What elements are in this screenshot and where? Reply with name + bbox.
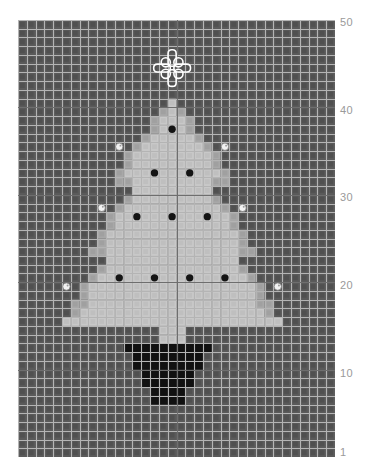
row-label-20: 20 xyxy=(340,280,353,291)
pattern-chart-page: 50 40 30 20 10 1 xyxy=(0,0,379,472)
row-label-30: 30 xyxy=(340,192,353,203)
row-axis-labels: 50 40 30 20 10 1 xyxy=(340,0,379,472)
row-label-50: 50 xyxy=(340,17,353,28)
pattern-canvas[interactable] xyxy=(18,20,335,457)
bead-pattern-grid[interactable] xyxy=(18,20,335,457)
row-label-1: 1 xyxy=(340,447,346,458)
row-label-40: 40 xyxy=(340,105,353,116)
row-label-10: 10 xyxy=(340,368,353,379)
